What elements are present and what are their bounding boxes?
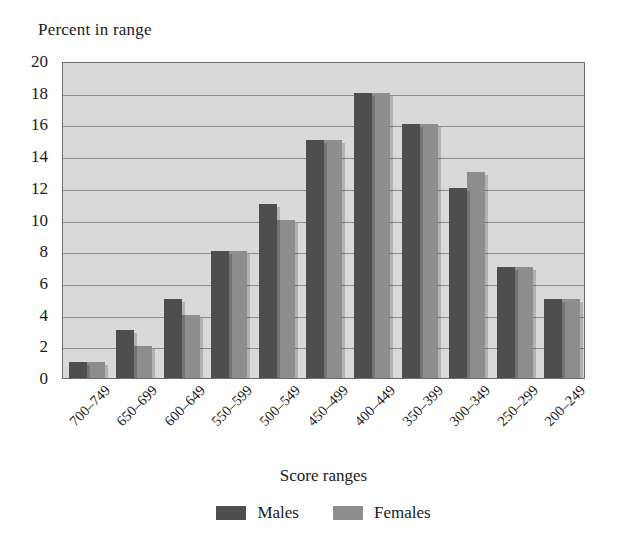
bars-layer <box>63 63 584 378</box>
x-tick-label: 450–499 <box>304 382 352 430</box>
bar-males <box>306 140 324 378</box>
y-tick-label: 8 <box>40 242 49 262</box>
y-axis-title: Percent in range <box>38 20 152 40</box>
y-tick-label: 12 <box>31 179 48 199</box>
x-tick-label: 700–749 <box>66 382 114 430</box>
legend-swatch-males <box>216 506 246 520</box>
bar-group <box>158 63 206 378</box>
y-tick-label: 0 <box>40 369 49 389</box>
bar-males <box>69 362 87 378</box>
y-tick-label: 10 <box>31 211 48 231</box>
bar-chart-figure: Percent in range 20181614121086420 700–7… <box>0 0 632 552</box>
bar-males <box>116 330 134 378</box>
y-tick-label: 18 <box>31 84 48 104</box>
x-axis-tick-labels: 700–749650–699600–649550–599500–549450–4… <box>62 382 585 458</box>
y-tick-label: 14 <box>31 147 48 167</box>
x-tick-label: 300–349 <box>446 382 494 430</box>
legend-label: Males <box>257 503 299 523</box>
bar-males <box>449 188 467 378</box>
bar-group <box>63 63 111 378</box>
x-tick-label: 250–299 <box>494 382 542 430</box>
bar-males <box>402 124 420 378</box>
legend-swatch-females <box>333 506 363 520</box>
y-tick-label: 2 <box>40 337 49 357</box>
y-axis-tick-labels: 20181614121086420 <box>0 62 56 379</box>
y-tick-label: 20 <box>31 52 48 72</box>
bar-males <box>354 93 372 378</box>
bar-males <box>497 267 515 378</box>
bar-males <box>211 251 229 378</box>
bar-males <box>164 299 182 378</box>
legend-item-males: Males <box>216 503 299 523</box>
bar-group <box>253 63 301 378</box>
x-tick-label: 550–599 <box>209 382 257 430</box>
legend-item-females: Females <box>333 503 431 523</box>
bar-group <box>396 63 444 378</box>
y-tick-label: 4 <box>40 306 49 326</box>
bar-group <box>111 63 159 378</box>
x-tick-label: 350–399 <box>399 382 447 430</box>
x-tick-label: 600–649 <box>161 382 209 430</box>
y-tick-label: 6 <box>40 274 49 294</box>
x-tick-label: 400–449 <box>351 382 399 430</box>
bar-group <box>301 63 349 378</box>
x-axis-title: Score ranges <box>62 466 585 486</box>
bar-group <box>538 63 586 378</box>
x-tick-label: 500–549 <box>256 382 304 430</box>
legend-label: Females <box>374 503 431 523</box>
x-tick-label: 650–699 <box>113 382 161 430</box>
bar-males <box>259 204 277 378</box>
chart-legend: MalesFemales <box>62 503 585 523</box>
x-tick-label: 200–249 <box>541 382 589 430</box>
bar-group <box>348 63 396 378</box>
bar-group <box>206 63 254 378</box>
bar-group <box>491 63 539 378</box>
plot-area <box>62 62 585 379</box>
bar-males <box>544 299 562 378</box>
bar-group <box>443 63 491 378</box>
y-tick-label: 16 <box>31 115 48 135</box>
